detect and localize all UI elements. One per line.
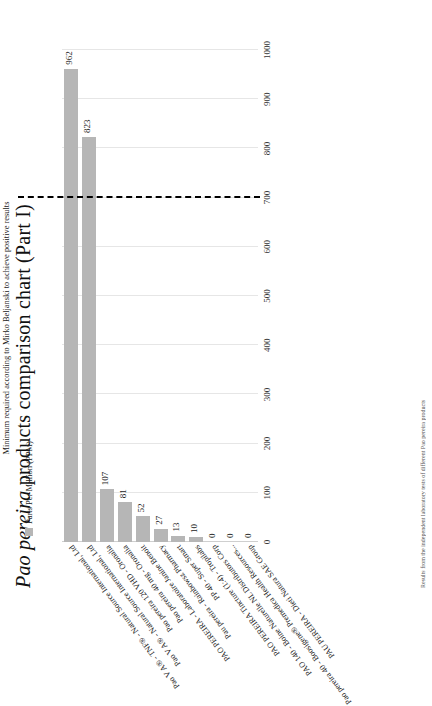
bar-row: 27	[154, 50, 168, 542]
bar	[82, 137, 96, 542]
bar-row: 52	[136, 50, 150, 542]
axis-tick-label: 200	[262, 437, 272, 451]
axis-tick-label: 300	[262, 388, 272, 402]
bar-value-label: 823	[82, 120, 92, 134]
bar-value-label: 10	[189, 524, 199, 533]
category-label: Pao pereira 40 - Boosigene® Premedica He…	[228, 543, 354, 706]
bar-row: 13	[171, 50, 185, 542]
bar-row: 0	[207, 50, 221, 542]
footnote: Results from the independent laboratory …	[420, 8, 426, 588]
bar-value-label: 13	[171, 523, 181, 532]
bar-value-label: 107	[100, 472, 110, 486]
axis-tick-label: 700	[262, 191, 272, 205]
axis-tick-label: 900	[262, 92, 272, 106]
bar-value-label: 962	[64, 51, 74, 65]
bar	[100, 489, 114, 542]
bar-row: 81	[118, 50, 132, 542]
bar	[154, 529, 168, 542]
bar-row: 962	[64, 50, 78, 542]
axis-tick-label: 0	[262, 540, 272, 545]
axis-tick-label: 1000	[262, 41, 272, 59]
bar	[189, 537, 203, 542]
bar	[64, 69, 78, 542]
bar-value-label: 0	[207, 534, 217, 539]
threshold-line: Minimum required according to Mirko Belj…	[18, 196, 260, 198]
axis-tick-label: 500	[262, 289, 272, 303]
legend: Parts Per Million (PPM)	[24, 441, 34, 536]
plot-area: 01002003004005006007008009001000 0001013…	[62, 50, 258, 542]
axis-tick-label: 800	[262, 142, 272, 156]
legend-label: Parts Per Million (PPM)	[24, 441, 34, 524]
bar-row: 823	[82, 50, 96, 542]
bar-row: 0	[225, 50, 239, 542]
bar-row: 0	[243, 50, 257, 542]
axis-tick-label: 100	[262, 486, 272, 500]
axis-tick-label: 600	[262, 240, 272, 254]
bar-value-label: 27	[154, 516, 164, 525]
bar-row: 107	[100, 50, 114, 542]
threshold-label: Minimum required according to Mirko Belj…	[2, 196, 11, 455]
bar-value-label: 81	[118, 489, 128, 498]
bar	[118, 502, 132, 542]
axis-tick-label: 400	[262, 338, 272, 352]
bar-value-label: 0	[225, 534, 235, 539]
bar-value-label: 0	[243, 534, 253, 539]
bar	[136, 516, 150, 542]
bar-row: 10	[189, 50, 203, 542]
legend-swatch-icon	[25, 528, 33, 536]
bar-value-label: 52	[136, 503, 146, 512]
bar	[171, 536, 185, 542]
